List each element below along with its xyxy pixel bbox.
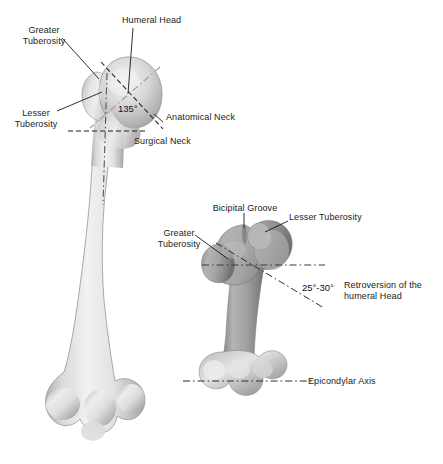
- right-trochlea: [228, 359, 250, 379]
- right-articular-surface-highlight: [255, 230, 289, 270]
- right-medial-epicondyle: [203, 360, 225, 380]
- label-retroversion-angle: 25°-30°: [302, 282, 334, 293]
- right-head-highlight: [222, 241, 246, 259]
- label-neck-shaft-angle: 135°: [118, 103, 138, 114]
- figure-canvas: [0, 0, 443, 464]
- left-trochlea: [84, 390, 116, 426]
- label-surgical-neck: Surgical Neck: [134, 136, 220, 147]
- left-capitulum: [81, 421, 105, 441]
- label-lesser-tuberosity-left: Lesser Tuberosity: [5, 108, 67, 130]
- right-humerus-bone: [199, 221, 292, 396]
- right-capitulum: [253, 360, 273, 378]
- left-head-highlight: [108, 68, 140, 96]
- label-lesser-tuberosity-right: Lesser Tuberosity: [289, 212, 385, 223]
- humerus-anatomy-figure: Greater Tuberosity Humeral Head Lesser T…: [0, 0, 443, 464]
- label-anatomical-neck: Anatomical Neck: [166, 112, 256, 123]
- label-greater-tuberosity-right: Greater Tuberosity: [148, 228, 210, 250]
- left-tuberosity-highlight: [88, 80, 102, 104]
- label-greater-tuberosity-left: Greater Tuberosity: [14, 25, 74, 47]
- label-epicondylar-axis: Epicondylar Axis: [308, 376, 418, 387]
- left-medial-epicondyle: [46, 388, 80, 420]
- label-retroversion-caption: Retroversion of the humeral Head: [344, 280, 442, 302]
- label-humeral-head: Humeral Head: [122, 15, 212, 26]
- label-bicipital-groove: Bicipital Groove: [204, 203, 286, 214]
- left-lateral-epicondyle: [117, 384, 145, 414]
